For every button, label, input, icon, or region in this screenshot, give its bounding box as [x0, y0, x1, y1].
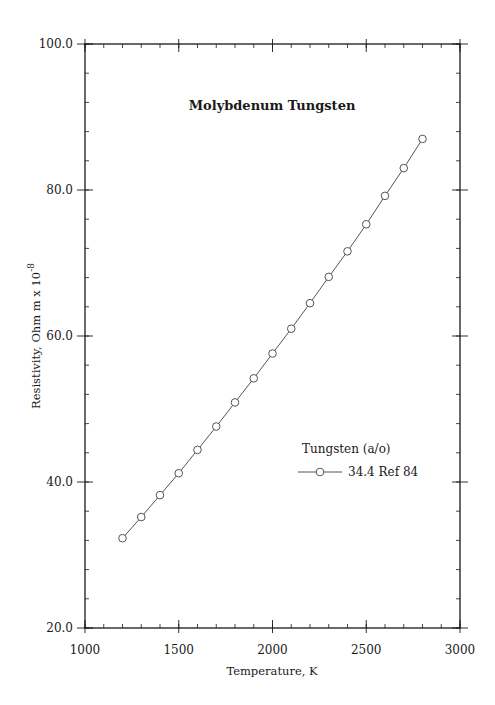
y-tick-label: 80.0 [46, 183, 73, 197]
data-point-circle-icon [344, 248, 352, 256]
y-axis-label-text: Resistivity, Ohm m x 10 [29, 272, 43, 409]
plot-border [85, 44, 460, 628]
data-point-circle-icon [287, 325, 295, 333]
y-tick-label: 20.0 [46, 621, 73, 635]
svg-text:Resistivity, Ohm m x 10-8: Resistivity, Ohm m x 10-8 [26, 263, 43, 409]
data-point-circle-icon [400, 164, 408, 172]
data-point-circle-icon [212, 423, 220, 431]
plot-frame [85, 44, 460, 628]
axis-ticks: 1000150020002500300020.040.060.080.0100.… [39, 37, 476, 657]
data-point-circle-icon [175, 469, 183, 477]
legend: Tungsten (a/o) 34.4 Ref 84 [298, 442, 419, 479]
y-axis-label: Resistivity, Ohm m x 10-8 [26, 263, 43, 409]
x-tick-label: 3000 [445, 643, 476, 657]
data-point-circle-icon [119, 534, 127, 542]
y-tick-label: 40.0 [46, 475, 73, 489]
data-point-circle-icon [156, 491, 164, 499]
data-point-circle-icon [381, 192, 389, 200]
data-point-circle-icon [362, 221, 370, 229]
data-point-circle-icon [325, 273, 333, 281]
data-point-circle-icon [269, 350, 277, 358]
x-tick-label: 2500 [351, 643, 382, 657]
x-axis-label: Temperature, K [226, 664, 318, 678]
data-series [119, 135, 427, 542]
x-tick-label: 1000 [70, 643, 101, 657]
data-point-circle-icon [250, 375, 258, 383]
x-tick-label: 1500 [163, 643, 194, 657]
chart-title: Molybdenum Tungsten [189, 98, 356, 113]
y-axis-label-exponent: -8 [26, 263, 36, 272]
x-tick-label: 2000 [257, 643, 288, 657]
data-point-circle-icon [306, 299, 314, 307]
data-point-circle-icon [137, 513, 145, 521]
chart: 1000150020002500300020.040.060.080.0100.… [0, 0, 495, 705]
data-point-circle-icon [419, 135, 427, 143]
legend-entry-label: 34.4 Ref 84 [348, 465, 419, 479]
y-tick-label: 60.0 [46, 329, 73, 343]
data-point-circle-icon [194, 446, 202, 454]
legend-title: Tungsten (a/o) [302, 442, 391, 456]
data-point-circle-icon [231, 399, 239, 407]
y-tick-label: 100.0 [39, 37, 73, 51]
legend-marker-circle-icon [316, 468, 324, 476]
